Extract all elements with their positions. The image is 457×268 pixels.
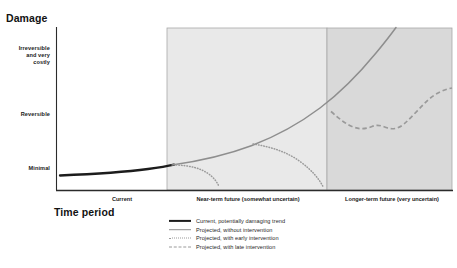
legend-item-projected-late: Projected, with late intervention: [168, 243, 348, 252]
chart-legend: Current, potentially damaging trend Proj…: [168, 217, 348, 251]
chart-figure: Damage Time period Irreversible and very…: [0, 0, 457, 268]
band-long-term: [327, 28, 452, 190]
series-current-trend: [60, 165, 174, 176]
y-tick-label-reversible: Reversible: [2, 111, 50, 118]
legend-swatch-dotted-icon: [168, 234, 192, 242]
legend-item-current-trend: Current, potentially damaging trend: [168, 217, 348, 226]
y-tick-label-irreversible: Irreversible and very costly: [2, 45, 50, 67]
x-tick-label-current: Current: [77, 196, 167, 202]
legend-label-projected-early: Projected, with early intervention: [192, 235, 279, 241]
legend-label-current-trend: Current, potentially damaging trend: [192, 218, 285, 224]
legend-swatch-dashed-icon: [168, 243, 192, 251]
legend-item-projected-no-intervention: Projected, without intervention: [168, 226, 348, 235]
y-axis-title: Damage: [6, 12, 47, 24]
y-tick-label-minimal: Minimal: [2, 165, 50, 172]
legend-label-projected-no-intervention: Projected, without intervention: [192, 227, 273, 233]
x-tick-label-long-term: Longer-term future (very uncertain): [330, 196, 454, 202]
band-near-term: [167, 28, 327, 190]
legend-item-projected-early: Projected, with early intervention: [168, 234, 348, 243]
x-tick-label-near-term: Near-term future (somewhat uncertain): [172, 196, 324, 202]
legend-label-projected-late: Projected, with late intervention: [192, 244, 275, 250]
legend-swatch-solid-black-icon: [168, 217, 192, 225]
x-axis-title: Time period: [54, 206, 114, 218]
legend-swatch-solid-gray-icon: [168, 226, 192, 234]
